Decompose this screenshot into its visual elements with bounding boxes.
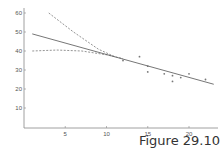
y-tick-label: 50: [15, 29, 22, 35]
data-point: [180, 77, 182, 79]
x-tick-label: 10: [103, 131, 110, 137]
y-tick-label: 20: [15, 86, 22, 92]
scatter-chart: 102030405060 5101520: [0, 0, 224, 154]
fitted-line: [32, 34, 214, 84]
y-tick-label: 10: [15, 105, 22, 111]
data-point: [139, 56, 141, 58]
data-point: [172, 81, 174, 83]
fit-lines: [32, 13, 214, 84]
axes: [24, 8, 218, 128]
y-tick-label: 40: [15, 48, 22, 54]
data-point: [172, 75, 174, 77]
data-point: [122, 60, 124, 62]
x-tick-label: 5: [64, 131, 68, 137]
data-point: [163, 73, 165, 75]
data-point: [147, 71, 149, 73]
data-point: [147, 65, 149, 67]
data-point: [205, 79, 207, 81]
y-tick-label: 30: [15, 67, 22, 73]
data-point: [188, 73, 190, 75]
figure-caption: Figure 29.10: [139, 133, 220, 148]
y-tick-label: 60: [15, 10, 22, 16]
